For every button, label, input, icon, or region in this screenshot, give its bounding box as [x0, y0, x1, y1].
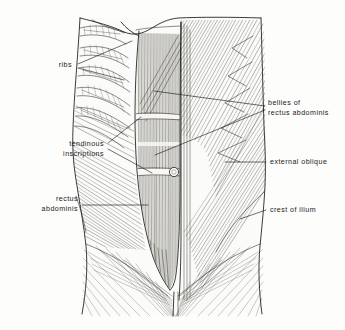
label-tendinous-inscriptions: tendinousinscriptions: [63, 140, 104, 158]
label-line: external oblique: [270, 158, 327, 166]
label-line: rectus abdominis: [268, 109, 329, 117]
label-bellies-of-rectus-abdominis: bellies ofrectus abdominis: [268, 99, 329, 117]
label-external-oblique: external oblique: [270, 158, 327, 166]
umbilicus: [169, 167, 178, 176]
label-line: bellies of: [268, 99, 301, 107]
label-line: rectus: [56, 195, 78, 203]
label-crest-of-ilium: crest of ilium: [270, 206, 316, 214]
label-line: inscriptions: [63, 150, 104, 158]
label-line: tendinous: [69, 140, 104, 148]
label-line: crest of ilium: [270, 206, 316, 214]
label-line: abdominis: [42, 205, 78, 213]
label-rectus-abdominis: rectusabdominis: [42, 195, 78, 213]
anatomical-figure: ribstendinousinscriptionsrectusabdominis…: [0, 0, 345, 330]
label-ribs: ribs: [59, 61, 72, 69]
label-line: ribs: [59, 61, 72, 69]
illustration-canvas: ribstendinousinscriptionsrectusabdominis…: [0, 0, 345, 330]
